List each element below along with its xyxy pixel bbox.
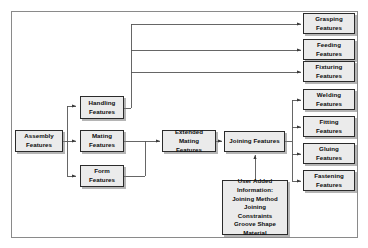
node-welding-features[interactable]: Welding Features bbox=[303, 89, 355, 110]
node-label: Fixturing Features bbox=[306, 63, 352, 81]
edge-form-extended bbox=[124, 141, 145, 176]
node-fixturing-features[interactable]: Fixturing Features bbox=[303, 61, 355, 82]
node-extended-mating-features[interactable]: Extended Mating Features bbox=[162, 130, 216, 152]
node-label: Assembly Features bbox=[18, 132, 60, 150]
node-grasping-features[interactable]: Grasping Features bbox=[303, 13, 355, 34]
node-label: Feeding Features bbox=[306, 41, 352, 59]
diagram-canvas: Assembly Features Handling Features Mati… bbox=[0, 0, 368, 248]
node-handling-features[interactable]: Handling Features bbox=[80, 96, 124, 119]
node-label: Extended Mating Features bbox=[165, 128, 213, 155]
node-label: User Added Information: Joining Method J… bbox=[225, 177, 285, 237]
node-user-added-information[interactable]: User Added Information: Joining Method J… bbox=[222, 180, 288, 235]
node-label: Gluing Features bbox=[306, 145, 352, 163]
node-assembly-features[interactable]: Assembly Features bbox=[15, 130, 63, 152]
node-fitting-features[interactable]: Fitting Features bbox=[303, 116, 355, 137]
node-mating-features[interactable]: Mating Features bbox=[80, 130, 124, 152]
node-label: Grasping Features bbox=[306, 15, 352, 33]
node-form-features[interactable]: Form Features bbox=[80, 165, 124, 187]
node-label: Joining Features bbox=[227, 137, 282, 146]
node-label: Handling Features bbox=[83, 99, 121, 117]
node-fastening-features[interactable]: Fastening Features bbox=[303, 170, 355, 191]
node-label: Welding Features bbox=[306, 91, 352, 109]
node-label: Form Features bbox=[83, 167, 121, 185]
node-joining-features[interactable]: Joining Features bbox=[224, 131, 285, 152]
node-label: Fitting Features bbox=[306, 118, 352, 136]
node-feeding-features[interactable]: Feeding Features bbox=[303, 39, 355, 60]
node-gluing-features[interactable]: Gluing Features bbox=[303, 143, 355, 164]
node-label: Mating Features bbox=[83, 132, 121, 150]
node-label: Fastening Features bbox=[306, 172, 352, 190]
